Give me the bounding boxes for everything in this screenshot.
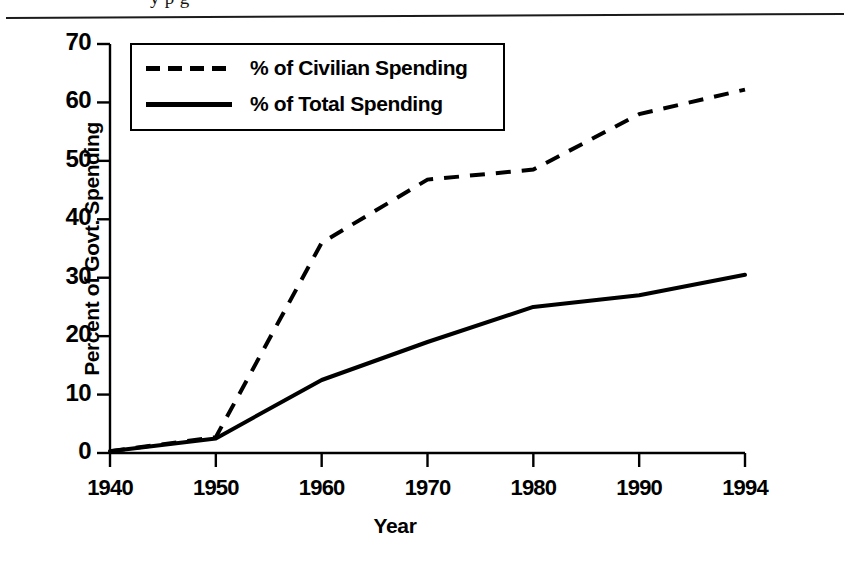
y-axis-tick-label: 70	[35, 28, 91, 56]
legend-item-total-spending: % of Total Spending	[132, 89, 503, 123]
x-axis-tick-label: 1994	[700, 475, 790, 501]
dashed-line-swatch-icon	[146, 66, 232, 71]
x-axis-tick-label: 1990	[594, 475, 684, 501]
running-head-text: y p g	[150, 0, 190, 9]
page-running-head: y p g	[0, 0, 848, 22]
legend-item-civilian-spending: % of Civilian Spending	[132, 53, 503, 87]
x-axis-tick-label: 1940	[65, 475, 155, 501]
legend-label-total-spending: % of Total Spending	[250, 92, 443, 116]
chart-legend: % of Civilian Spending % of Total Spendi…	[130, 43, 505, 131]
series-line-total-spending	[110, 275, 745, 451]
y-axis-tick-label: 0	[35, 437, 91, 465]
x-axis-ticks	[110, 453, 745, 467]
x-axis-tick-label: 1970	[383, 475, 473, 501]
legend-label-civilian-spending: % of Civilian Spending	[250, 56, 468, 80]
x-axis-tick-label: 1980	[488, 475, 578, 501]
x-axis-tick-label: 1960	[277, 475, 367, 501]
series-line-civilian-spending	[110, 90, 745, 452]
solid-line-swatch-icon	[146, 102, 232, 107]
y-axis-title: Percent of Govt. Spending	[80, 84, 104, 414]
chart-figure: 010203040506070 194019501960197019801990…	[0, 22, 848, 562]
header-divider	[6, 13, 844, 19]
x-axis-title: Year	[0, 514, 790, 538]
x-axis-tick-label: 1950	[171, 475, 261, 501]
